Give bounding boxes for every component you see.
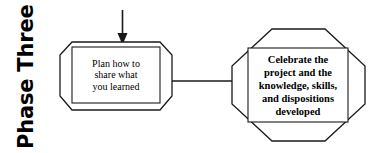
entry-arrow — [118, 10, 128, 45]
celebrate-node-label-line-1: Celebrate the — [268, 53, 328, 66]
plan-node-label-line-2: share what — [94, 69, 137, 81]
diagram-canvas: Phase Three Plan how to share what you l… — [0, 0, 376, 153]
plan-node-label: Plan how to share what you learned — [72, 47, 160, 103]
plan-node-label-line-1: Plan how to — [92, 58, 140, 70]
celebrate-node-label-line-2: project and the — [264, 66, 332, 79]
celebrate-node-label: Celebrate the project and the knowledge,… — [248, 48, 348, 122]
plan-node-label-line-3: you learned — [93, 81, 140, 93]
celebrate-node-label-line-4: and dispositions — [262, 92, 334, 105]
celebrate-node-label-line-5: developed — [276, 105, 321, 118]
celebrate-node-label-line-3: knowledge, skills, — [259, 79, 337, 92]
